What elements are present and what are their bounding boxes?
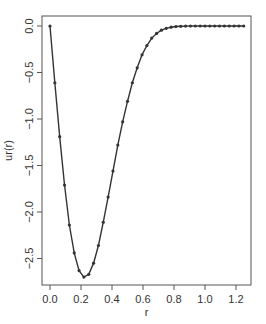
data-point: [165, 27, 168, 30]
data-point: [131, 81, 134, 84]
data-point: [92, 262, 95, 265]
data-point: [218, 24, 221, 27]
y-tick-label: −1.5: [23, 155, 35, 177]
x-tick-label: 0.0: [42, 293, 57, 305]
y-tick-label: 0.0: [23, 18, 35, 33]
y-tick-label: −2.0: [23, 201, 35, 223]
data-point: [63, 183, 66, 186]
data-point: [107, 196, 110, 199]
data-point: [174, 25, 177, 28]
data-point: [169, 26, 172, 29]
data-point: [208, 24, 211, 27]
data-point: [228, 24, 231, 27]
series-line: [50, 26, 244, 277]
data-point: [140, 53, 143, 56]
data-point: [213, 24, 216, 27]
line-chart: 0.00.20.40.60.81.01.2 0.0−0.5−1.0−1.5−2.…: [0, 0, 266, 324]
data-point: [194, 24, 197, 27]
y-axis-label: ur(r): [2, 140, 14, 161]
x-tick-label: 0.6: [135, 293, 150, 305]
y-tick-label: −2.5: [23, 248, 35, 270]
data-point: [48, 24, 51, 27]
data-point: [53, 81, 56, 84]
x-tick-label: 0.4: [104, 293, 119, 305]
data-point: [184, 24, 187, 27]
y-tick-label: −1.0: [23, 108, 35, 130]
data-point: [111, 169, 114, 172]
data-point: [189, 24, 192, 27]
data-point: [121, 120, 124, 123]
data-point: [203, 24, 206, 27]
data-point: [136, 66, 139, 69]
data-point: [223, 24, 226, 27]
data-point: [116, 143, 119, 146]
data-point: [145, 44, 148, 47]
data-point: [58, 135, 61, 138]
data-point: [73, 251, 76, 254]
y-tick-label: −0.5: [23, 62, 35, 84]
data-point: [179, 25, 182, 28]
data-point: [126, 100, 129, 103]
data-point: [155, 32, 158, 35]
data-point: [237, 24, 240, 27]
data-point: [199, 24, 202, 27]
x-axis: 0.00.20.40.60.81.01.2: [42, 285, 243, 305]
data-point: [150, 36, 153, 39]
data-point: [102, 221, 105, 224]
x-tick-label: 1.2: [228, 293, 243, 305]
x-tick-label: 1.0: [197, 293, 212, 305]
series-points: [48, 24, 245, 278]
y-axis: 0.0−0.5−1.0−1.5−2.0−2.5: [23, 18, 42, 269]
data-point: [232, 24, 235, 27]
data-point: [97, 244, 100, 247]
data-point: [82, 276, 85, 279]
data-point: [68, 223, 71, 226]
x-tick-label: 0.2: [73, 293, 88, 305]
data-point: [160, 29, 163, 32]
x-tick-label: 0.8: [166, 293, 181, 305]
data-point: [87, 273, 90, 276]
data-point: [77, 269, 80, 272]
data-point: [242, 24, 245, 27]
x-axis-label: r: [145, 306, 149, 318]
